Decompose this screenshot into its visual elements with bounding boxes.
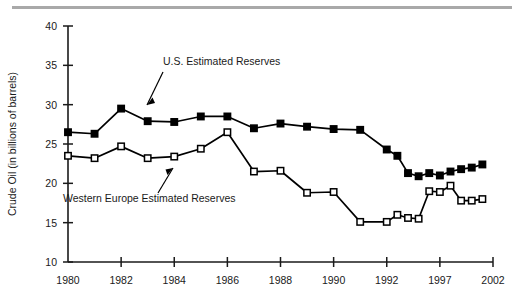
data-point-filled-square bbox=[144, 118, 150, 124]
data-point-filled-square bbox=[357, 127, 363, 133]
y-axis-tick-label: 35 bbox=[45, 59, 57, 71]
x-axis-tick-label: 1982 bbox=[109, 274, 133, 286]
data-point-open-square bbox=[118, 143, 124, 149]
data-point-open-square bbox=[65, 153, 71, 159]
data-point-open-square bbox=[437, 189, 443, 195]
chart-body: 1015202530354019801982198419861988199019… bbox=[6, 20, 505, 286]
data-point-filled-square bbox=[118, 105, 124, 111]
y-axis-tick-label: 10 bbox=[45, 256, 57, 268]
x-axis-tick-label: 1988 bbox=[269, 274, 293, 286]
data-point-filled-square bbox=[447, 168, 453, 174]
data-point-filled-square bbox=[171, 119, 177, 125]
we-annotation-leader-line bbox=[158, 168, 173, 193]
data-point-open-square bbox=[304, 190, 310, 196]
data-point-open-square bbox=[415, 216, 421, 222]
data-point-filled-square bbox=[437, 172, 443, 178]
western-europe-series-annotation-label: Western Europe Estimated Reserves bbox=[63, 192, 236, 204]
line-chart: 1015202530354019801982198419861988199019… bbox=[0, 0, 523, 303]
y-axis-tick-label: 25 bbox=[45, 138, 57, 150]
data-point-filled-square bbox=[198, 113, 204, 119]
data-point-open-square bbox=[144, 155, 150, 161]
data-point-filled-square bbox=[458, 166, 464, 172]
data-point-open-square bbox=[330, 189, 336, 195]
data-point-filled-square bbox=[479, 161, 485, 167]
data-point-open-square bbox=[384, 219, 390, 225]
data-point-filled-square bbox=[224, 113, 230, 119]
data-point-filled-square bbox=[469, 164, 475, 170]
x-axis-tick-label: 1980 bbox=[56, 274, 80, 286]
data-point-open-square bbox=[447, 182, 453, 188]
data-point-open-square bbox=[171, 153, 177, 159]
data-point-open-square bbox=[198, 146, 204, 152]
data-point-open-square bbox=[405, 215, 411, 221]
data-point-filled-square bbox=[405, 170, 411, 176]
x-axis-tick-label: 1997 bbox=[428, 274, 452, 286]
data-point-filled-square bbox=[384, 146, 390, 152]
y-axis-tick-label: 15 bbox=[45, 217, 57, 229]
figure-container: 1015202530354019801982198419861988199019… bbox=[0, 0, 523, 303]
data-point-open-square bbox=[469, 197, 475, 203]
x-axis-tick-label: 1990 bbox=[322, 274, 346, 286]
x-axis-tick-label: 2002 bbox=[481, 274, 505, 286]
data-point-filled-square bbox=[304, 123, 310, 129]
us-annotation-leader-line bbox=[147, 72, 163, 105]
data-point-open-square bbox=[91, 155, 97, 161]
data-point-filled-square bbox=[394, 153, 400, 159]
y-axis-tick-label: 30 bbox=[45, 99, 57, 111]
data-point-filled-square bbox=[330, 126, 336, 132]
data-point-open-square bbox=[251, 168, 257, 174]
data-point-filled-square bbox=[91, 131, 97, 137]
data-point-open-square bbox=[426, 188, 432, 194]
data-point-filled-square bbox=[65, 129, 71, 135]
data-point-filled-square bbox=[415, 173, 421, 179]
us-series-annotation-label: U.S. Estimated Reserves bbox=[163, 55, 280, 67]
data-point-open-square bbox=[458, 197, 464, 203]
y-axis-title: Crude Oil (in billions of barrels) bbox=[6, 72, 18, 216]
data-point-filled-square bbox=[277, 120, 283, 126]
data-point-filled-square bbox=[251, 125, 257, 131]
x-axis-tick-label: 1986 bbox=[216, 274, 240, 286]
y-axis-tick-label: 20 bbox=[45, 177, 57, 189]
data-point-open-square bbox=[357, 219, 363, 225]
y-axis-tick-label: 40 bbox=[45, 20, 57, 32]
series-line bbox=[68, 109, 482, 177]
data-point-open-square bbox=[479, 196, 485, 202]
x-axis-tick-label: 1984 bbox=[163, 274, 187, 286]
x-axis-tick-label: 1992 bbox=[375, 274, 399, 286]
data-point-filled-square bbox=[426, 170, 432, 176]
data-point-open-square bbox=[224, 129, 230, 135]
data-point-open-square bbox=[277, 168, 283, 174]
series-us bbox=[65, 105, 486, 179]
data-point-open-square bbox=[394, 212, 400, 218]
